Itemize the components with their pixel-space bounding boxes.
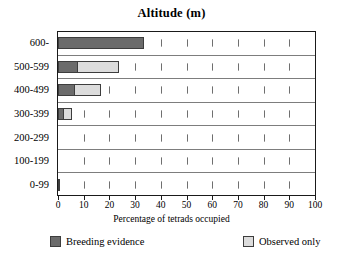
x-axis-tick-label: 0	[56, 200, 61, 210]
x-axis-tick-label: 90	[285, 200, 295, 210]
x-axis-tick-label: 20	[105, 200, 115, 210]
chart-row	[58, 126, 315, 150]
gridline-tick	[135, 158, 136, 165]
gridline-tick	[264, 134, 265, 141]
gridline-tick	[109, 182, 110, 189]
y-axis-tick-label: 600-	[0, 31, 53, 55]
gridline-tick	[212, 158, 213, 165]
gridline-tick	[135, 182, 136, 189]
gridline-tick	[109, 158, 110, 165]
y-axis-tick-label: 400-499	[0, 78, 53, 102]
gridline-tick	[238, 182, 239, 189]
gridline-tick	[212, 182, 213, 189]
x-axis-tick-label: 10	[79, 200, 89, 210]
gridline-tick	[84, 158, 85, 165]
chart-title: Altitude (m)	[0, 6, 343, 21]
gridline-tick	[109, 87, 110, 94]
gridline-ticks	[58, 126, 315, 149]
legend-item-breeding-evidence[interactable]: Breeding evidence	[50, 236, 144, 247]
gridline-tick	[161, 158, 162, 165]
gridline-tick	[238, 63, 239, 70]
gridline-tick	[161, 63, 162, 70]
chart-row	[58, 56, 315, 80]
light-gray-swatch-icon	[243, 236, 254, 247]
gridline-tick	[289, 87, 290, 94]
stacked-bar	[58, 84, 101, 96]
gridline-tick	[289, 134, 290, 141]
gridline-tick	[187, 134, 188, 141]
legend-label: Observed only	[259, 236, 321, 247]
gridline-tick	[238, 110, 239, 117]
x-axis-tick-label: 70	[233, 200, 243, 210]
gridline-tick	[161, 134, 162, 141]
y-axis-tick-label: 200-299	[0, 125, 53, 149]
bar-segment-observed-only	[64, 108, 72, 120]
chart-row	[58, 173, 315, 197]
chart-legend: Breeding evidence Observed only	[0, 236, 343, 252]
gridline-tick	[264, 158, 265, 165]
gridline-tick	[289, 182, 290, 189]
gridline-tick	[264, 182, 265, 189]
altitude-bar-chart-figure: Altitude (m) 600- 500-599 400-499 300-39…	[0, 0, 343, 264]
gridline-tick	[289, 110, 290, 117]
x-axis-tick-label: 30	[130, 200, 140, 210]
gridline-tick	[289, 40, 290, 47]
x-axis-tick-label: 50	[182, 200, 192, 210]
chart-row	[58, 103, 315, 127]
gridline-tick	[289, 158, 290, 165]
bar-segment-breeding-evidence	[58, 179, 60, 191]
stacked-bar	[58, 37, 144, 49]
legend-item-observed-only[interactable]: Observed only	[243, 236, 321, 247]
x-axis-tick-labels: 0102030405060708090100	[57, 200, 316, 214]
y-axis-tick-label: 0-99	[0, 172, 53, 196]
bar-segment-breeding-evidence	[58, 84, 75, 96]
stacked-bar	[58, 61, 119, 73]
gridline-tick	[135, 87, 136, 94]
x-axis-tick-label: 60	[207, 200, 217, 210]
y-axis-category-labels: 600- 500-599 400-499 300-399 200-299 100…	[0, 31, 53, 196]
gridline-tick	[84, 110, 85, 117]
gridline-tick	[238, 87, 239, 94]
gridline-tick	[187, 182, 188, 189]
chart-row	[58, 79, 315, 103]
chart-row	[58, 32, 315, 56]
gridline-tick	[212, 87, 213, 94]
x-axis-label: Percentage of tetrads occupied	[0, 214, 343, 224]
bar-segment-breeding-evidence	[58, 37, 144, 49]
gridline-tick	[135, 110, 136, 117]
x-axis-tick-label: 80	[259, 200, 269, 210]
gridline-tick	[161, 40, 162, 47]
legend-label: Breeding evidence	[66, 236, 144, 247]
y-axis-tick-label: 100-199	[0, 149, 53, 173]
gridline-tick	[238, 40, 239, 47]
bar-segment-observed-only	[78, 61, 119, 73]
gridline-tick	[161, 182, 162, 189]
gridline-tick	[109, 110, 110, 117]
gridline-tick	[264, 110, 265, 117]
gridline-tick	[161, 110, 162, 117]
dark-gray-swatch-icon	[50, 236, 61, 247]
gridline-tick	[187, 87, 188, 94]
gridline-tick	[187, 110, 188, 117]
bar-segment-observed-only	[75, 84, 101, 96]
gridline-tick	[135, 63, 136, 70]
stacked-bar	[58, 179, 60, 191]
gridline-tick	[135, 134, 136, 141]
x-axis-tick-label: 40	[156, 200, 166, 210]
gridline-tick	[109, 134, 110, 141]
gridline-tick	[212, 63, 213, 70]
gridline-ticks	[58, 103, 315, 126]
gridline-tick	[212, 110, 213, 117]
gridline-tick	[212, 40, 213, 47]
x-axis-tick-label: 100	[308, 200, 322, 210]
gridline-tick	[84, 134, 85, 141]
gridline-tick	[264, 63, 265, 70]
gridline-ticks	[58, 173, 315, 197]
stacked-bar	[58, 108, 72, 120]
y-axis-tick-label: 300-399	[0, 102, 53, 126]
plot-area	[57, 31, 316, 196]
bar-segment-breeding-evidence	[58, 61, 78, 73]
gridline-tick	[238, 134, 239, 141]
gridline-tick	[264, 40, 265, 47]
gridline-tick	[212, 134, 213, 141]
